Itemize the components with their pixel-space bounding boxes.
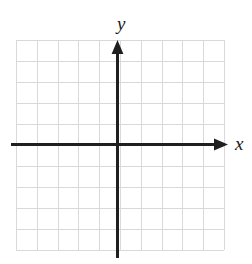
arrow-right-icon	[214, 139, 228, 151]
y-axis-label: y	[117, 14, 125, 33]
arrow-up-icon	[112, 40, 124, 54]
x-axis	[11, 139, 228, 151]
plot-canvas	[0, 0, 252, 264]
y-axis	[112, 40, 124, 258]
x-axis-label: x	[235, 134, 243, 153]
coordinate-plane-figure: y x	[0, 0, 252, 264]
